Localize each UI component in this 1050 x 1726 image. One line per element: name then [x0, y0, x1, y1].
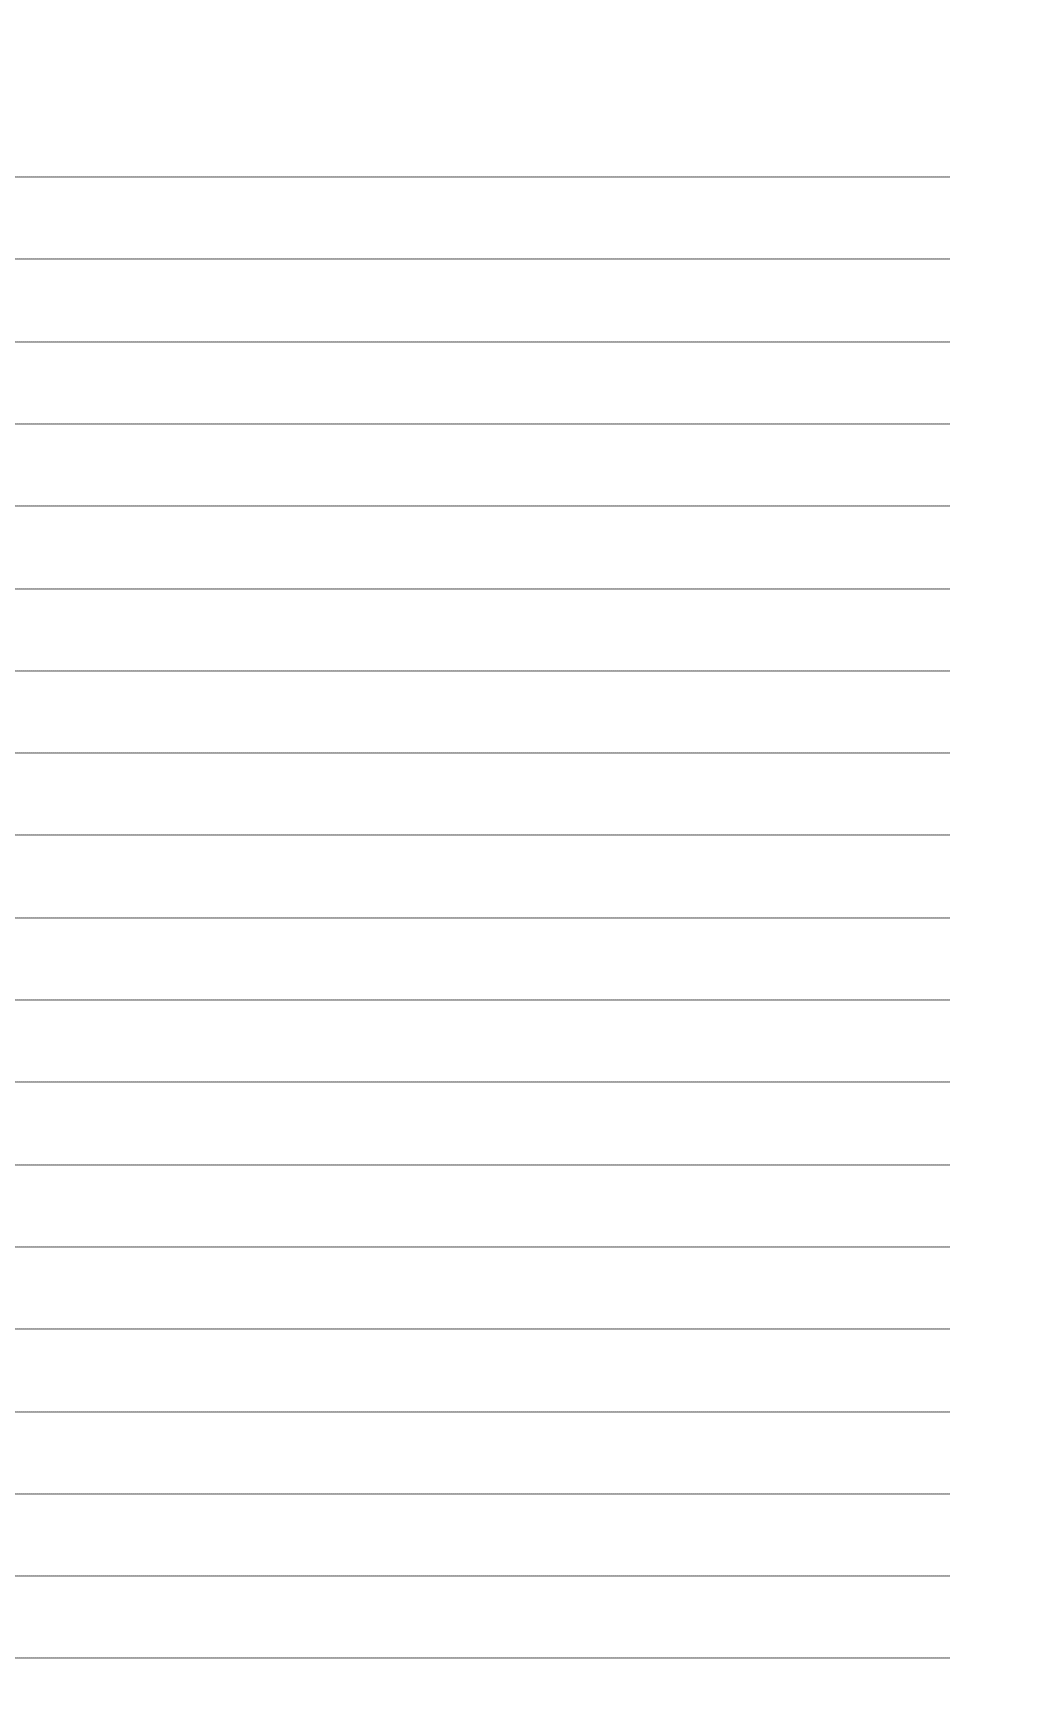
ruled-line [15, 1493, 950, 1495]
ruled-line [15, 1575, 950, 1577]
ruled-line [15, 341, 950, 343]
ruled-line [15, 258, 950, 260]
ruled-line [15, 999, 950, 1001]
ruled-line [15, 423, 950, 425]
ruled-line [15, 1411, 950, 1413]
ruled-line [15, 1328, 950, 1330]
lined-paper-page [0, 0, 1050, 1726]
ruled-line [15, 1657, 950, 1659]
ruled-line [15, 1246, 950, 1248]
ruled-line [15, 1081, 950, 1083]
ruled-line [15, 176, 950, 178]
ruled-line [15, 834, 950, 836]
ruled-line [15, 505, 950, 507]
ruled-line [15, 917, 950, 919]
ruled-line [15, 670, 950, 672]
ruled-line [15, 752, 950, 754]
ruled-line [15, 1164, 950, 1166]
ruled-line [15, 588, 950, 590]
